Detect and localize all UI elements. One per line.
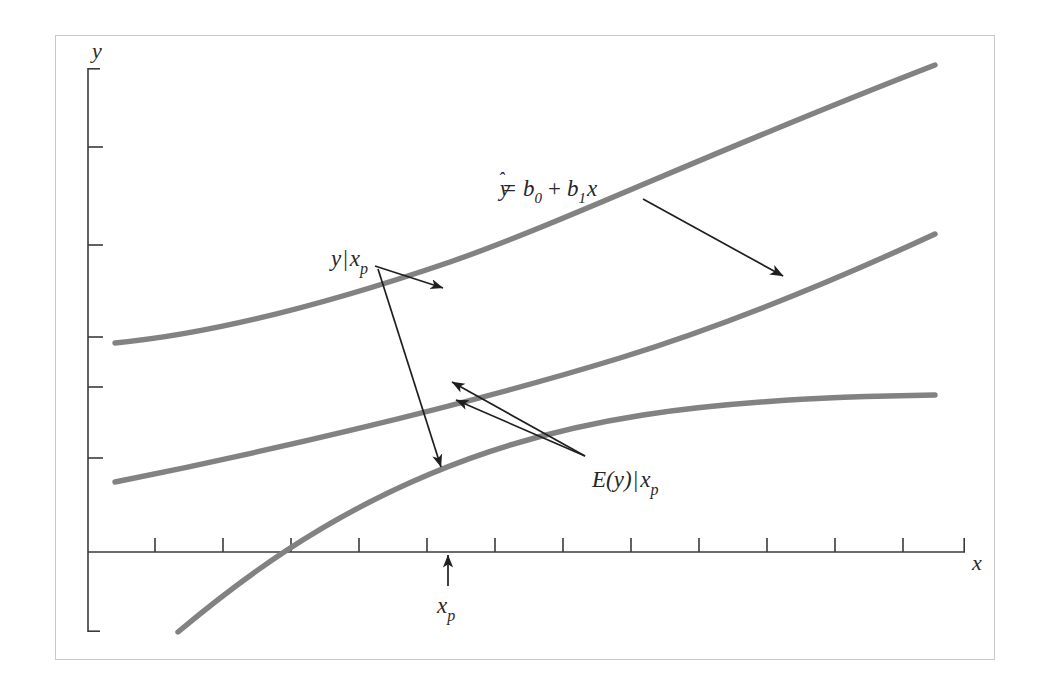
xp-x-glyph: x: [436, 593, 448, 618]
y-axis-label: y: [90, 38, 102, 63]
prediction-y-glyph: y: [329, 246, 342, 271]
regression-b0-glyph: b: [523, 176, 535, 201]
regression-b1-glyph: b: [567, 176, 579, 201]
confidence-ey-glyph: E(y): [591, 467, 632, 492]
regression-equals-glyph: =: [503, 176, 516, 201]
prediction-x-glyph: x: [349, 246, 361, 271]
confidence-p-subscript: p: [649, 481, 658, 499]
confidence-x-glyph: x: [639, 467, 651, 492]
regression-diagram-canvas: y x ŷ=b0+b1x: [0, 0, 1050, 691]
prediction-bar-glyph: |: [343, 246, 348, 271]
xp-p-subscript: p: [446, 607, 455, 625]
regression-diagram-figure: y x ŷ=b0+b1x: [0, 0, 1050, 691]
x-axis-label: x: [971, 550, 982, 575]
prediction-p-subscript: p: [359, 260, 368, 278]
figure-border: [56, 36, 995, 660]
regression-sub1-glyph: 1: [578, 190, 586, 206]
confidence-bar-glyph: |: [634, 467, 639, 492]
regression-plus-glyph: +: [548, 176, 561, 201]
regression-x-glyph: x: [586, 176, 598, 201]
regression-sub0-glyph: 0: [534, 190, 542, 206]
